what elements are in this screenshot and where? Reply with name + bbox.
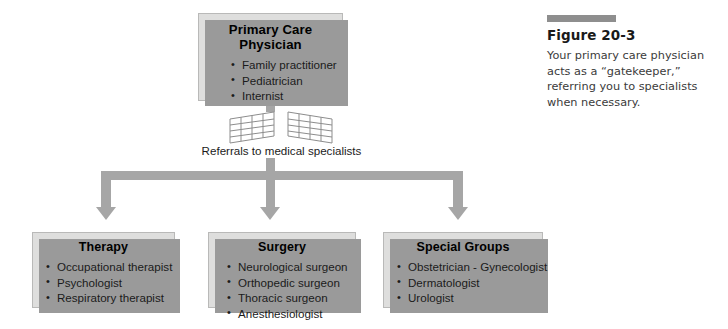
list-item: Dermatologist (397, 275, 542, 291)
list-item: Urologist (397, 290, 542, 306)
node-item-list: Family practitioner Pediatrician Interni… (231, 57, 342, 104)
connector-stem-right (453, 171, 463, 208)
connector-stem-left (101, 171, 111, 208)
node-content: Primary Care Physician Family practition… (199, 14, 342, 108)
figure-caption-text: Your primary care physician acts as a “g… (547, 48, 719, 110)
connector-stem-middle (266, 158, 275, 171)
arrowhead-left-icon (96, 207, 116, 220)
figure-number: Figure 20-3 (547, 27, 719, 44)
node-surgery: Surgery Neurological surgeon Orthopedic … (208, 232, 356, 308)
node-item-list: Obstetrician - Gynecologist Dermatologis… (397, 259, 542, 306)
node-content: Special Groups Obstetrician - Gynecologi… (384, 233, 542, 314)
list-item: Anesthesiologist (227, 306, 355, 322)
node-content: Therapy Occupational therapist Psycholog… (33, 233, 174, 314)
list-item: Thoracic surgeon (227, 290, 355, 306)
list-item: Neurological surgeon (227, 259, 355, 275)
node-primary-care-physician: Primary Care Physician Family practition… (198, 13, 343, 101)
node-special-groups: Special Groups Obstetrician - Gynecologi… (383, 232, 543, 308)
node-title: Surgery (209, 240, 355, 255)
node-item-list: Neurological surgeon Orthopedic surgeon … (227, 259, 355, 321)
list-item: Occupational therapist (46, 259, 174, 275)
figure-canvas: Primary Care Physician Family practition… (0, 0, 728, 329)
list-item: Family practitioner (231, 57, 342, 73)
connector-stem-center (266, 171, 275, 208)
open-gate-icon (228, 110, 334, 144)
list-item: Respiratory therapist (46, 290, 174, 306)
caption-rule (547, 15, 616, 22)
list-item: Internist (231, 88, 342, 104)
connector-horizontal-bar (101, 171, 463, 180)
list-item: Pediatrician (231, 73, 342, 89)
node-title: Primary Care Physician (199, 22, 342, 52)
node-title: Special Groups (384, 240, 542, 255)
list-item: Psychologist (46, 275, 174, 291)
node-content: Surgery Neurological surgeon Orthopedic … (209, 233, 355, 314)
node-item-list: Occupational therapist Psychologist Resp… (46, 259, 174, 306)
arrowhead-center-icon (260, 207, 280, 220)
list-item: Obstetrician - Gynecologist (397, 259, 542, 275)
node-therapy: Therapy Occupational therapist Psycholog… (32, 232, 175, 308)
figure-caption: Figure 20-3 Your primary care physician … (547, 15, 719, 110)
gate-label: Referrals to medical specialists (160, 144, 403, 157)
node-title: Therapy (33, 240, 174, 255)
arrowhead-right-icon (448, 207, 468, 220)
list-item: Orthopedic surgeon (227, 275, 355, 291)
